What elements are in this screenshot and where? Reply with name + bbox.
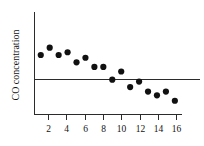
data-point (100, 64, 106, 70)
x-tick-label-2: 2 (46, 124, 51, 134)
data-point (136, 78, 142, 84)
chart-figure: 2 4 6 8 10 12 14 16 CO concentration (0, 0, 204, 146)
x-tick-label-6: 6 (83, 124, 88, 134)
data-point (154, 92, 160, 98)
data-point (73, 59, 79, 65)
y-axis-title: CO concentration (10, 30, 21, 101)
data-point (127, 84, 133, 90)
data-point (172, 98, 178, 104)
x-tick-label-10: 10 (117, 124, 127, 134)
data-point (56, 52, 62, 58)
x-tick-label-12: 12 (136, 124, 146, 134)
data-point (82, 55, 88, 61)
x-tick-label-16: 16 (172, 124, 182, 134)
x-tick-label-14: 14 (154, 124, 164, 134)
data-point (109, 77, 115, 83)
data-point (91, 64, 97, 70)
data-point (38, 52, 44, 58)
data-point (47, 45, 53, 51)
data-point (64, 49, 70, 55)
x-tick-label-4: 4 (64, 124, 69, 134)
data-point (145, 89, 151, 95)
data-point (163, 89, 169, 95)
x-tick-label-8: 8 (101, 124, 106, 134)
data-point (118, 68, 124, 74)
scatter-plot-canvas: 2 4 6 8 10 12 14 16 CO concentration (0, 0, 204, 146)
